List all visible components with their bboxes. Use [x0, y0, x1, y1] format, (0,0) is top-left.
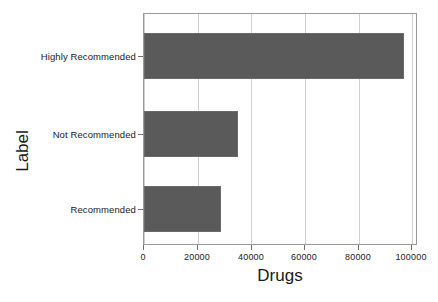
gridline-20000	[198, 14, 199, 244]
xtick-label-0: 0	[140, 252, 145, 262]
gridline-80000	[359, 14, 360, 244]
bar-chart: 0 20000 40000 60000 80000 100000 Highly …	[0, 0, 438, 302]
gridline-60000	[305, 14, 306, 244]
xtick-label-60000: 60000	[291, 252, 317, 262]
xtick-mark-20000	[197, 245, 198, 250]
gridline-40000	[251, 14, 252, 244]
xtick-mark-100000	[411, 245, 412, 250]
xtick-mark-60000	[304, 245, 305, 250]
xtick-label-40000: 40000	[238, 252, 264, 262]
ytick-label-recommended: Recommended	[70, 204, 136, 215]
ytick-mark-recommended	[138, 209, 143, 210]
plot-area	[143, 13, 417, 245]
gridline-0	[144, 14, 145, 244]
gridline-100000	[412, 14, 413, 244]
y-axis-title: Label	[13, 130, 33, 172]
x-axis-title: Drugs	[143, 266, 417, 286]
xtick-label-100000: 100000	[395, 252, 426, 262]
ytick-label-not-recommended: Not Recommended	[53, 129, 136, 140]
xtick-mark-0	[143, 245, 144, 250]
xtick-label-20000: 20000	[184, 252, 210, 262]
xtick-mark-40000	[251, 245, 252, 250]
ytick-label-highly-recommended: Highly Recommended	[41, 51, 136, 62]
xtick-mark-80000	[358, 245, 359, 250]
ytick-mark-not-recommended	[138, 134, 143, 135]
xtick-label-80000: 80000	[345, 252, 371, 262]
ytick-mark-highly-recommended	[138, 56, 143, 57]
